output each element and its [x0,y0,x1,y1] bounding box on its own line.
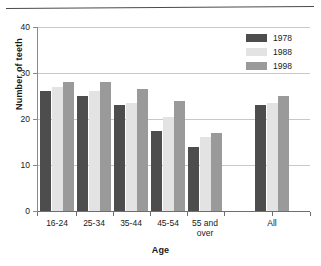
gridline [38,73,310,74]
bar [163,117,174,211]
y-tick-mark [33,73,38,74]
y-tick-label: 0 [0,206,30,216]
y-axis-title: Number of teeth [0,0,8,84]
legend-item: 1998 [246,59,312,73]
y-tick-mark [33,165,38,166]
legend-label: 1988 [273,47,292,57]
bar [255,105,266,211]
bar [40,91,51,211]
x-axis-title-text: Age [152,245,170,255]
legend-swatch [246,48,267,56]
bar [114,105,125,211]
x-axis-title: Age [0,245,321,255]
y-tick-label: 10 [0,160,30,170]
y-tick-label: 20 [0,114,30,124]
bar [267,103,278,211]
y-axis-title-text: Number of teeth [14,38,24,110]
x-category-label: 55 and over [183,218,227,238]
legend-label: 1998 [273,61,292,71]
chart-legend: 197819881998 [246,31,312,73]
x-tick-mark [272,212,273,216]
bar [100,82,111,211]
bar [188,147,199,211]
x-axis-line [37,211,310,212]
y-tick-mark [33,27,38,28]
bar [52,87,63,211]
legend-item: 1988 [246,45,312,59]
bar [174,101,185,211]
x-tick-mark [76,212,77,216]
chart-figure: 010203040 16-2425-3435-4445-5455 and ove… [0,0,321,266]
x-tick-mark [224,212,225,216]
gridline [38,27,310,28]
bar [211,133,222,211]
x-tick-mark [37,212,38,216]
x-tick-mark [113,212,114,216]
x-tick-mark [310,212,311,216]
bar [200,137,211,211]
legend-label: 1978 [273,33,292,43]
bar [151,131,162,212]
bar [77,96,88,211]
legend-swatch [246,34,267,42]
y-tick-mark [33,119,38,120]
bar [63,82,74,211]
x-tick-mark [150,212,151,216]
bar [89,91,100,211]
x-tick-mark [187,212,188,216]
bar [126,103,137,211]
legend-swatch [246,62,267,70]
bar [278,96,289,211]
bar [137,89,148,211]
top-divider-rule [6,6,314,9]
x-category-label: All [250,218,294,228]
legend-item: 1978 [246,31,312,45]
